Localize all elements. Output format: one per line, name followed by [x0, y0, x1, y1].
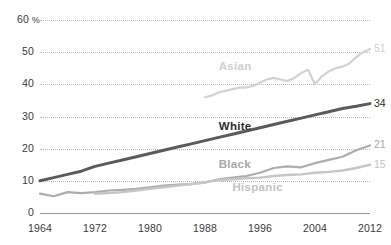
- chart-container: 0102030405060 % 196419721980198819962004…: [0, 0, 391, 245]
- line-series-black: [40, 145, 370, 196]
- series-lines: [0, 0, 391, 245]
- series-label-white: White: [219, 120, 252, 132]
- series-label-hispanic: Hispanic: [233, 181, 283, 193]
- line-series-white: [40, 104, 370, 181]
- line-series-asian: [205, 49, 370, 97]
- series-label-asian: Asian: [219, 60, 252, 72]
- end-value-label-asian: 51: [374, 42, 386, 54]
- end-value-label-white: 34: [374, 97, 386, 109]
- end-value-label-black: 21: [374, 138, 386, 150]
- end-value-label-hispanic: 15: [374, 158, 386, 170]
- series-label-black: Black: [219, 158, 251, 170]
